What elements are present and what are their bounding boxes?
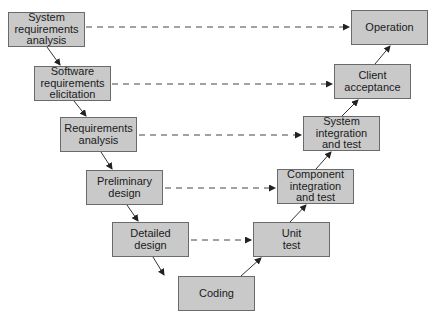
connectors (0, 0, 435, 318)
node-detailed-design: Detailed design (112, 222, 189, 257)
node-requirements-analysis: Requirements analysis (60, 117, 137, 152)
node-unit-test: Unit test (253, 222, 330, 257)
node-coding: Coding (178, 276, 255, 311)
node-client-acceptance: Client acceptance (334, 64, 411, 99)
node-system-integration-and-test: System integration and test (303, 116, 380, 151)
node-operation: Operation (351, 10, 428, 45)
node-preliminary-design: Preliminary design (86, 170, 163, 205)
node-software-requirements-elicitation: Software requirements elicitation (34, 66, 111, 101)
node-system-requirements-analysis: System requirements analysis (8, 12, 85, 47)
node-component-integration-and-test: Component integration and test (277, 169, 354, 204)
